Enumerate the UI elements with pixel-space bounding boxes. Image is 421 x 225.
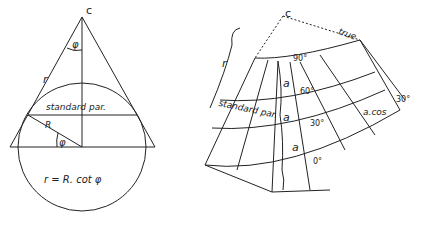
diagram-canvas: c φ r standard par. R φ r = R. cot φ c r…: [0, 0, 421, 225]
standard-parallel-label-left: standard par.: [46, 103, 106, 112]
lat-0-label: 0°: [313, 158, 322, 166]
diagram-lines: [0, 0, 421, 225]
spacing-label-1: a: [283, 78, 290, 89]
spacing-label-2: a: [283, 112, 290, 123]
lat-90-label: 90°: [293, 55, 307, 63]
angle-label-bottom: φ: [59, 138, 66, 148]
cos-angle-label: 30°: [396, 96, 410, 104]
formula: r = R. cot φ: [44, 175, 101, 185]
lat-60-label: 60°: [300, 88, 314, 96]
spacing-label-3: a: [292, 142, 299, 153]
apex-label-left: c: [86, 5, 92, 16]
side-label: r: [222, 58, 227, 69]
apex-label-right: c: [285, 8, 291, 19]
lat-30-label: 30°: [310, 120, 324, 128]
radius-label: R: [45, 121, 51, 130]
cos-label: a.cos: [363, 108, 387, 117]
angle-label-top: φ: [72, 40, 79, 50]
slant-label: r: [43, 74, 48, 85]
